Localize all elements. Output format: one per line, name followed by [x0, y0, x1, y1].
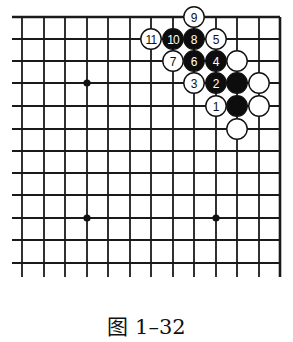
- white-stone: 9: [184, 7, 204, 27]
- move-number-label: 3: [191, 77, 198, 91]
- figure-caption: 图 1–32: [0, 310, 293, 340]
- move-number-label: 6: [191, 55, 198, 69]
- move-number-label: 5: [213, 33, 220, 47]
- black-stone: [227, 96, 247, 116]
- move-number-label: 4: [213, 55, 220, 69]
- black-stone: 4: [206, 51, 226, 71]
- white-stone: [249, 96, 269, 116]
- white-stone: [227, 51, 247, 71]
- black-stone: [227, 73, 247, 93]
- move-number-label: 7: [170, 55, 177, 69]
- move-number-label: 11: [146, 33, 158, 47]
- move-number-label: 9: [191, 11, 198, 25]
- white-stone: 5: [206, 29, 226, 49]
- white-stone: 1: [206, 96, 226, 116]
- white-stone: 3: [184, 73, 204, 93]
- move-number-label: 10: [167, 33, 180, 47]
- white-stone: 11: [141, 29, 161, 49]
- white-stone: [249, 73, 269, 93]
- black-stone: 6: [184, 51, 204, 71]
- go-board-diagram: 1234567891011: [0, 0, 293, 300]
- move-number-label: 8: [191, 33, 198, 47]
- black-stone: 10: [163, 29, 183, 49]
- black-stone: 2: [206, 73, 226, 93]
- star-point-icon: [83, 214, 90, 221]
- move-number-label: 1: [213, 100, 220, 114]
- black-stone: 8: [184, 29, 204, 49]
- stones-layer: 1234567891011: [141, 7, 269, 139]
- move-number-label: 2: [213, 77, 220, 91]
- star-point-icon: [83, 79, 90, 86]
- white-stone: [227, 119, 247, 139]
- star-point-icon: [212, 214, 219, 221]
- white-stone: 7: [163, 51, 183, 71]
